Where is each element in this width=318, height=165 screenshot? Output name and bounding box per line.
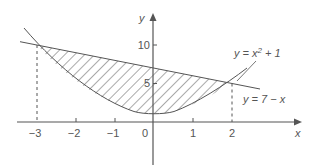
parabola-leader-line [237, 61, 256, 81]
area-between-curves-diagram: −3 −2 −1 0 1 2 5 10 y x y = x2 + 1 y = 7… [0, 0, 318, 165]
shaded-region [37, 45, 232, 114]
x-tick-label: 2 [229, 127, 235, 139]
x-tick-label: −3 [29, 127, 42, 139]
y-tick-label: 5 [144, 77, 150, 89]
y-axis-arrow-icon [150, 13, 157, 21]
x-tick-label: −1 [107, 127, 120, 139]
x-tick-label: 0 [142, 127, 148, 139]
parabola-label: y = x2 + 1 [233, 46, 281, 59]
x-axis [17, 119, 302, 126]
y-axis-label: y [138, 12, 146, 24]
y-tick-label: 10 [138, 39, 150, 51]
x-axis-label: x [294, 127, 301, 139]
x-tick-label: −2 [68, 127, 81, 139]
x-tick-label: 1 [190, 127, 196, 139]
line-label: y = 7 − x [242, 93, 286, 105]
x-axis-arrow-icon [294, 119, 302, 126]
